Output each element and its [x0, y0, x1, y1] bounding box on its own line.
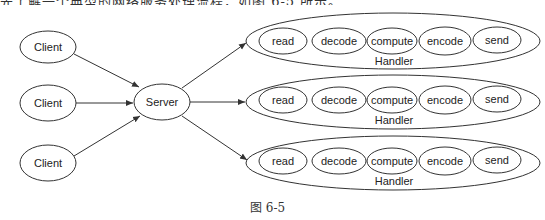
client-label: Client	[34, 41, 62, 53]
edge-client1-server	[74, 54, 139, 87]
handler-group-1: read decode compute encode send Handler	[246, 13, 540, 69]
stage-send: send	[485, 154, 509, 166]
edge-client3-server	[74, 116, 140, 156]
stage-decode: decode	[321, 94, 357, 106]
client-node-2: Client	[20, 85, 76, 121]
stage-read: read	[272, 155, 294, 167]
figure-caption: 图 6-5	[250, 198, 285, 215]
stage-compute: compute	[371, 155, 413, 167]
stage-compute: compute	[371, 35, 413, 47]
handler-label: Handler	[375, 55, 414, 67]
handler-label: Handler	[375, 175, 414, 187]
handler-group-3: read decode compute encode send Handler	[246, 136, 540, 190]
client-node-3: Client	[20, 145, 76, 181]
edge-server-handler3	[182, 116, 247, 160]
stage-send: send	[485, 93, 509, 105]
stage-encode: encode	[427, 155, 463, 167]
stage-read: read	[272, 35, 294, 47]
reactor-flow-diagram: Client Client Client Server read decode …	[0, 0, 545, 220]
client-label: Client	[34, 157, 62, 169]
stage-encode: encode	[427, 35, 463, 47]
server-label: Server	[146, 96, 179, 108]
client-label: Client	[34, 97, 62, 109]
server-node: Server	[134, 84, 190, 120]
stage-compute: compute	[371, 94, 413, 106]
client-node-1: Client	[20, 31, 76, 63]
handler-group-2: read decode compute encode send Handler	[246, 75, 540, 129]
stage-decode: decode	[321, 155, 357, 167]
stage-send: send	[485, 34, 509, 46]
stage-encode: encode	[427, 94, 463, 106]
stage-decode: decode	[321, 35, 357, 47]
edge-server-handler1	[182, 43, 246, 88]
handler-label: Handler	[375, 114, 414, 126]
stage-read: read	[272, 94, 294, 106]
